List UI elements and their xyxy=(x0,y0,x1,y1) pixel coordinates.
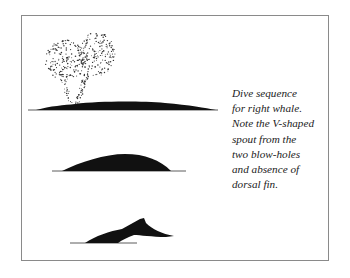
whale-tail-fluke xyxy=(85,218,174,243)
v-shaped-spout xyxy=(45,33,115,104)
caption-line: and absence of xyxy=(232,162,332,177)
caption-line: spout from the xyxy=(232,132,332,147)
caption-line: dorsal fin. xyxy=(232,177,332,192)
stage-2-arching xyxy=(52,154,186,171)
stage-3-fluke xyxy=(70,218,174,243)
figure-caption: Dive sequence for right whale. Note the … xyxy=(232,86,332,192)
stage-1-surfacing xyxy=(28,33,218,110)
caption-line: for right whale. xyxy=(232,101,332,116)
whale-back-2 xyxy=(62,154,171,171)
caption-line: two blow-holes xyxy=(232,147,332,162)
whale-back-1 xyxy=(36,102,216,110)
caption-line: Dive sequence xyxy=(232,86,332,101)
caption-line: Note the V-shaped xyxy=(232,116,332,131)
